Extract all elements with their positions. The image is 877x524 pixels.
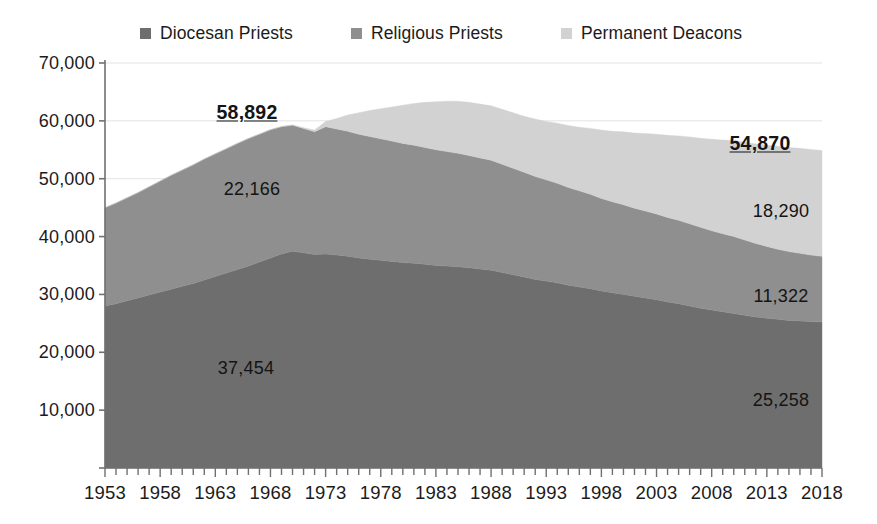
- data-label-11322: 11,322: [754, 286, 809, 307]
- data-label-37454: 37,454: [218, 358, 274, 379]
- y-axis-label: 20,000: [5, 342, 95, 363]
- data-label-18290: 18,290: [753, 201, 809, 222]
- y-axis-label: 10,000: [5, 400, 95, 421]
- data-label-58892: 58,892: [217, 101, 278, 124]
- stacked-area-chart: Diocesan Priests Religious Priests Perma…: [0, 0, 877, 524]
- data-label-22166: 22,166: [224, 179, 280, 200]
- y-axis-label: 50,000: [5, 168, 95, 189]
- data-label-54870: 54,870: [730, 132, 791, 155]
- y-axis-label: 40,000: [5, 226, 95, 247]
- plot-area: [0, 0, 877, 524]
- y-axis-label: 60,000: [5, 110, 95, 131]
- data-label-25258: 25,258: [753, 390, 809, 411]
- x-axis-label: 2018: [787, 482, 857, 504]
- chart-canvas: [0, 0, 877, 524]
- y-axis-label: 30,000: [5, 284, 95, 305]
- stacked-series: [105, 101, 822, 468]
- y-axis-label: 70,000: [5, 53, 95, 74]
